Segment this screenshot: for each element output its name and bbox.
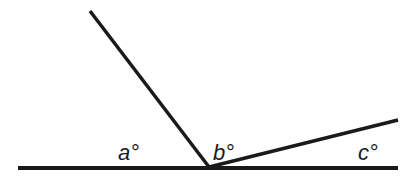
angle-label-a: a° <box>118 140 139 165</box>
angle-label-b: b° <box>213 140 234 165</box>
angle-label-c: c° <box>358 140 378 165</box>
angle-diagram: a° b° c° <box>0 0 418 179</box>
left-ray <box>90 11 209 167</box>
